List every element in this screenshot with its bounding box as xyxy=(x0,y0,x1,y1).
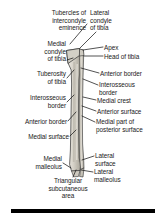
scale-bar xyxy=(11,209,155,213)
leader-lateral-condyle-of-tibia xyxy=(80,32,96,48)
leader-interosseous-border-right xyxy=(83,79,98,85)
label-anterior-border-right: Anterior border xyxy=(100,70,142,78)
label-medial-part-of-posterior-surface: Medial part of posterior surface xyxy=(96,118,143,133)
label-apex: Apex xyxy=(104,44,118,52)
leader-medial-part-of-posterior-surface xyxy=(82,116,95,122)
label-medial-malleolus: Medial malleolus xyxy=(35,155,62,170)
label-head-of-tibia: Head of tibia xyxy=(104,53,139,61)
label-anterior-surface: Anterior surface xyxy=(97,108,141,116)
label-medial-surface: Medial surface xyxy=(28,133,69,141)
leader-anterior-border-right xyxy=(81,68,99,73)
label-anterior-border-left: Anterior border xyxy=(25,118,67,126)
label-lateral-malleolus: Lateral malleolus xyxy=(94,168,121,183)
label-interosseous-border-right: Interosseous border xyxy=(99,81,135,96)
label-medial-condyle-of-tibia: Medial condyle of tibia xyxy=(44,40,66,63)
label-lateral-surface: Lateral surface xyxy=(95,152,116,167)
leader-apex xyxy=(83,47,103,50)
label-tubercles-of-intercondyle-eminence: Tubercles of intercondyle eminence xyxy=(52,9,86,32)
label-medial-crest: Medial crest xyxy=(97,97,131,105)
label-tuberosity-of-tibia: Tuberosity of tibia xyxy=(37,70,66,85)
label-triangular-subcutaneous-area: Triangular subcutaneous area xyxy=(48,177,87,200)
leader-medial-crest xyxy=(83,97,96,100)
anatomy-figure: Tubercles of intercondyle eminenceLatera… xyxy=(0,0,165,219)
label-interosseous-border-left: Interosseous border xyxy=(30,94,66,109)
label-lateral-condyle-of-tibia: Lateral condyle of tibia xyxy=(90,9,112,32)
leader-anterior-surface xyxy=(82,106,96,111)
